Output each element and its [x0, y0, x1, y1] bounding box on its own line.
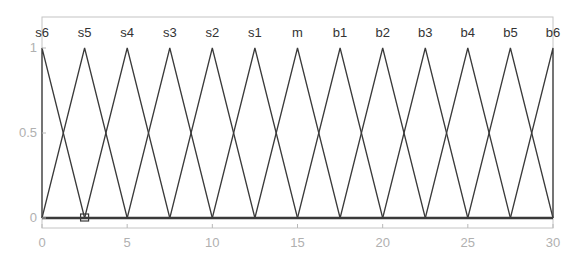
- y-tick-label: 0.5: [19, 125, 37, 140]
- curve-m: [255, 48, 340, 218]
- label-s4: s4: [120, 25, 134, 40]
- curve-b2: [340, 48, 425, 218]
- curve-s1: [212, 48, 297, 218]
- label-m: m: [292, 25, 303, 40]
- curve-s2: [170, 48, 255, 218]
- label-s6: s6: [35, 25, 49, 40]
- label-b4: b4: [461, 25, 475, 40]
- x-tick-label: 5: [124, 235, 131, 250]
- curve-s5: [42, 48, 127, 218]
- label-b6: b6: [546, 25, 560, 40]
- x-tick-label: 0: [38, 235, 45, 250]
- x-tick-label: 20: [375, 235, 389, 250]
- curve-b5: [468, 48, 553, 218]
- membership-curves: [42, 48, 553, 218]
- x-tick-label: 30: [546, 235, 560, 250]
- membership-function-chart: s6s5s4s3s2s1mb1b2b3b4b5b6 051015202530 0…: [0, 0, 577, 262]
- curve-s4: [85, 48, 170, 218]
- curve-s3: [127, 48, 212, 218]
- label-b5: b5: [503, 25, 517, 40]
- y-tick-label: 0: [30, 210, 37, 225]
- label-b1: b1: [333, 25, 347, 40]
- x-tick-label: 15: [290, 235, 304, 250]
- label-s3: s3: [163, 25, 177, 40]
- label-b2: b2: [375, 25, 389, 40]
- y-tick-label: 1: [30, 40, 37, 55]
- x-tick-label: 10: [205, 235, 219, 250]
- curve-b3: [383, 48, 468, 218]
- label-s5: s5: [78, 25, 92, 40]
- label-s1: s1: [248, 25, 262, 40]
- label-b3: b3: [418, 25, 432, 40]
- curve-b4: [425, 48, 510, 218]
- membership-labels: s6s5s4s3s2s1mb1b2b3b4b5b6: [35, 25, 560, 40]
- label-s2: s2: [205, 25, 219, 40]
- curve-b1: [298, 48, 383, 218]
- x-tick-label: 25: [461, 235, 475, 250]
